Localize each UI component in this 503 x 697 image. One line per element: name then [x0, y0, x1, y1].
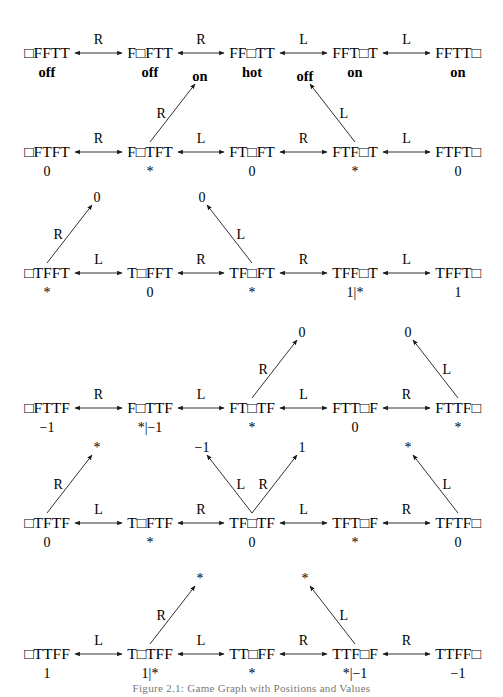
move-label: R	[94, 32, 104, 47]
move-label: R	[402, 387, 412, 402]
move-label: R	[299, 252, 309, 267]
position-node: FTT□F	[332, 399, 378, 416]
terminal-value: 0	[405, 325, 412, 340]
position-node: TT□FF	[229, 645, 275, 662]
position-node: FTF□T	[332, 143, 378, 160]
terminal-value: −1	[195, 440, 210, 455]
position-node: FT□TF	[229, 399, 275, 416]
move-label: L	[339, 106, 348, 121]
position-node: T□FTF	[127, 514, 173, 531]
move-label: L	[236, 227, 245, 242]
terminal-value: *	[197, 571, 204, 586]
move-label: L	[94, 252, 103, 267]
move-label: R	[259, 477, 269, 492]
position-value: off	[142, 64, 159, 80]
move-label: R	[196, 252, 206, 267]
move-label: R	[259, 362, 269, 377]
position-node: □TFFT	[24, 264, 70, 281]
position-value: *	[352, 535, 359, 550]
move-label: R	[94, 131, 104, 146]
position-value: *|−1	[343, 666, 368, 681]
position-node: TTFF□	[435, 645, 481, 662]
move-label: R	[54, 477, 64, 492]
position-value: 0	[44, 535, 51, 550]
position-value: on	[450, 64, 465, 80]
position-node: □FTFT	[24, 143, 70, 160]
move-label: R	[299, 633, 309, 648]
move-label: L	[197, 633, 206, 648]
move-label: R	[157, 608, 167, 623]
position-value: *	[147, 164, 154, 179]
move-label: L	[299, 502, 308, 517]
move-label: L	[299, 32, 308, 47]
position-value: 0	[249, 535, 256, 550]
position-node: TF□FT	[229, 264, 275, 281]
position-node: TFTF□	[435, 514, 481, 531]
position-value: *	[352, 164, 359, 179]
move-label: R	[94, 387, 104, 402]
terminal-edge	[207, 455, 252, 513]
position-value: hot	[242, 64, 262, 80]
move-label: L	[402, 32, 411, 47]
position-node: T□FFT	[127, 264, 173, 281]
move-label: R	[196, 32, 206, 47]
position-node: □FFTT	[24, 44, 70, 61]
position-value: 1	[44, 666, 51, 681]
terminal-value: off	[297, 68, 314, 84]
position-node: TFFT□	[435, 264, 481, 281]
position-value: *	[147, 535, 154, 550]
move-label: R	[402, 502, 412, 517]
position-value: on	[347, 64, 362, 80]
move-label: R	[157, 106, 167, 121]
position-value: *	[249, 666, 256, 681]
position-value: 1	[455, 285, 462, 300]
position-node: FFT□T	[332, 44, 378, 61]
position-node: □TTFF	[24, 645, 70, 662]
move-label: L	[299, 387, 308, 402]
move-label: L	[402, 131, 411, 146]
move-label: L	[197, 387, 206, 402]
position-value: 0	[249, 164, 256, 179]
move-label: L	[236, 477, 245, 492]
terminal-edge	[413, 455, 458, 513]
position-node: FF□TT	[229, 44, 275, 61]
move-label: L	[339, 608, 348, 623]
move-label: R	[299, 131, 309, 146]
position-value: 0	[147, 285, 154, 300]
move-label: L	[402, 252, 411, 267]
position-node: TTF□F	[332, 645, 378, 662]
terminal-edge	[310, 84, 355, 142]
position-value: off	[39, 64, 56, 80]
terminal-value: *	[94, 440, 101, 455]
position-value: −1	[451, 666, 466, 681]
terminal-value: 0	[299, 325, 306, 340]
position-value: *	[44, 285, 51, 300]
position-node: FFTT□	[435, 44, 481, 61]
position-value: 0	[455, 164, 462, 179]
position-value: 0	[44, 164, 51, 179]
position-node: F□TTF	[127, 399, 173, 416]
game-graph: □FFTToffF□FTToffFF□TThotFFT□TonFFTT□onRR…	[0, 0, 503, 697]
move-label: L	[197, 131, 206, 146]
position-node: TFT□F	[332, 514, 378, 531]
position-node: □TFTF	[24, 514, 70, 531]
terminal-edge	[310, 586, 355, 644]
move-label: L	[94, 633, 103, 648]
move-label: L	[442, 362, 451, 377]
position-node: FT□FT	[229, 143, 275, 160]
position-value: *	[455, 420, 462, 435]
terminal-value: on	[192, 68, 207, 84]
position-value: −1	[40, 420, 55, 435]
position-node: FTTF□	[435, 399, 481, 416]
move-label: R	[54, 227, 64, 242]
position-value: *	[249, 420, 256, 435]
position-node: FTFT□	[435, 143, 481, 160]
position-node: TFF□T	[332, 264, 378, 281]
terminal-value: 0	[199, 190, 206, 205]
position-value: *|−1	[138, 420, 163, 435]
move-label: L	[94, 502, 103, 517]
terminal-value: *	[405, 440, 412, 455]
terminal-value: 0	[94, 190, 101, 205]
position-node: F□FTT	[127, 44, 173, 61]
position-value: 0	[455, 535, 462, 550]
